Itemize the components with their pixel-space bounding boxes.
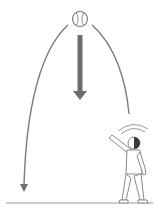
sound-waves-icon	[118, 124, 148, 134]
trajectory-diagram	[0, 0, 163, 215]
baseball-icon	[73, 12, 88, 27]
person-waving-icon	[109, 135, 148, 203]
arrow-down-icon	[73, 35, 87, 100]
diagram-canvas	[0, 0, 163, 215]
curved-arrow-icon	[20, 25, 68, 192]
curved-line-icon	[92, 25, 129, 114]
